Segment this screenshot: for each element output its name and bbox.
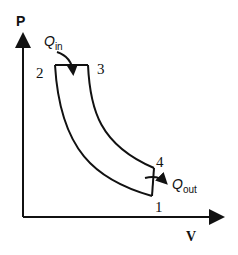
cycle-path — [55, 65, 154, 196]
q-in-arrow — [57, 52, 73, 72]
q-in-label: Qin — [44, 34, 63, 52]
point-3-label: 3 — [97, 62, 105, 77]
point-4-label: 4 — [156, 155, 164, 170]
v-axis-label: V — [186, 230, 196, 244]
p-axis-label: P — [16, 14, 25, 28]
point-1-label: 1 — [155, 200, 163, 215]
point-2-label: 2 — [36, 66, 44, 81]
q-out-arrow — [145, 177, 165, 182]
q-out-label: Qout — [172, 177, 197, 195]
pv-diagram — [0, 0, 238, 255]
